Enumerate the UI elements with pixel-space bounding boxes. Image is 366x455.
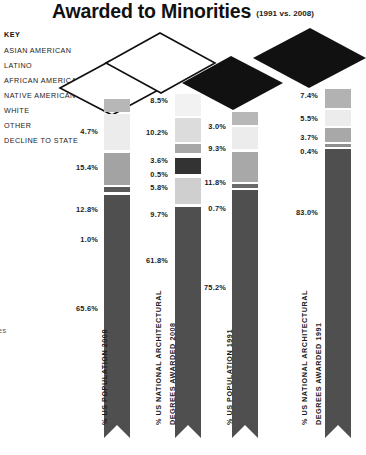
bar-notch-col4 bbox=[325, 416, 351, 438]
stacked-ribbon-chart bbox=[0, 0, 366, 455]
value-label-col3-asian-american: 3.0% bbox=[172, 122, 226, 131]
bar-segment-white-col2 bbox=[175, 207, 201, 416]
bar-column-us-population-2008 bbox=[60, 61, 162, 438]
value-label-col2-decline-to-state: 9.7% bbox=[112, 210, 168, 219]
value-label-col1-white: 65.6% bbox=[38, 304, 98, 313]
value-label-col2-other: 5.8% bbox=[112, 183, 168, 192]
value-label-col3-native-american: 0.7% bbox=[172, 204, 226, 213]
axis-caption-col4-line1: % US NATIONAL ARCHITECTURAL bbox=[300, 290, 309, 425]
value-label-col3-white: 75.2% bbox=[172, 283, 226, 292]
axis-caption-col3: % US POPULATION 1991 bbox=[225, 329, 234, 425]
axis-caption-col2-line2: DEGREES AWARDED 2008 bbox=[168, 322, 177, 425]
value-label-col1-native-american: 1.0% bbox=[38, 235, 98, 244]
value-label-col1-asian-american: 4.7% bbox=[38, 127, 98, 136]
bar-segment-latino-col3 bbox=[232, 127, 258, 149]
value-label-col2-latino: 10.2% bbox=[112, 128, 168, 137]
value-label-col4-latino: 5.5% bbox=[264, 114, 318, 123]
bar-segment-native-american-col2 bbox=[175, 154, 201, 157]
value-label-col2-white: 61.8% bbox=[112, 256, 168, 265]
value-label-col1-african-american: 12.8% bbox=[38, 205, 98, 214]
bar-segment-other-col2 bbox=[175, 158, 201, 174]
bar-segment-african-american-col3 bbox=[232, 152, 258, 182]
bar-segment-asian-american-col3 bbox=[232, 112, 258, 125]
bar-notch-col3 bbox=[232, 416, 258, 438]
infographic-canvas: Awarded to Minorities(1991 vs. 2008) KEY… bbox=[0, 0, 366, 455]
axis-caption-col1: % US POPULATION 2008 bbox=[100, 329, 109, 425]
bar-segment-native-american-col4 bbox=[325, 144, 351, 147]
bar-segment-asian-american-col2 bbox=[175, 94, 201, 116]
bar-segment-asian-american-col4 bbox=[325, 89, 351, 108]
value-label-col4-asian-american: 7.4% bbox=[264, 91, 318, 100]
bar-segment-white-col3 bbox=[232, 190, 258, 416]
value-label-col2-african-american: 3.6% bbox=[112, 156, 168, 165]
bar-segment-white-col4 bbox=[325, 149, 351, 416]
axis-caption-col2-line1: % US NATIONAL ARCHITECTURAL bbox=[154, 290, 163, 425]
value-label-col4-native-american: 0.4% bbox=[264, 147, 318, 156]
value-label-col3-latino: 9.3% bbox=[172, 144, 226, 153]
value-label-col2-asian-american: 8.5% bbox=[112, 96, 168, 105]
value-label-col4-white: 83.0% bbox=[264, 208, 318, 217]
bar-segment-african-american-col4 bbox=[325, 128, 351, 142]
bar-notch-col2 bbox=[175, 416, 201, 438]
value-label-col2-native-american: 0.5% bbox=[112, 170, 168, 179]
bar-segment-native-american-col3 bbox=[232, 184, 258, 188]
value-label-col4-african-american: 3.7% bbox=[264, 133, 318, 142]
value-label-col3-african-american: 11.8% bbox=[172, 178, 226, 187]
value-label-col1-latino: 15.4% bbox=[38, 163, 98, 172]
bar-segment-latino-col4 bbox=[325, 110, 351, 126]
axis-caption-col4-line2: DEGREES AWARDED 1991 bbox=[314, 322, 323, 425]
